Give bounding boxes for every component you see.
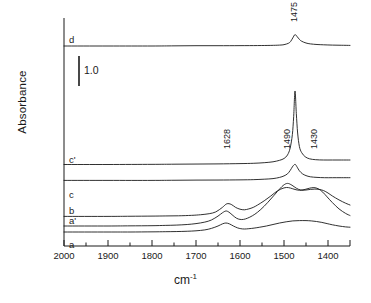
spectrum-trace-d bbox=[64, 35, 350, 46]
ftir-spectra-figure: Absorbance cm-1 200019001800170016001500… bbox=[0, 0, 371, 303]
trace-label-c: c bbox=[69, 189, 74, 200]
y-axis-label: Absorbance bbox=[16, 52, 28, 152]
x-tick-label: 1400 bbox=[317, 250, 338, 261]
axis-ticks bbox=[64, 240, 350, 246]
peak-label-1430: 1430 bbox=[309, 129, 319, 149]
trace-label-a-prime: a' bbox=[69, 215, 76, 226]
x-tick-label: 1900 bbox=[97, 250, 118, 261]
spectra-traces bbox=[64, 35, 350, 232]
peak-label-1475: 1475 bbox=[289, 2, 299, 22]
peak-label-1628: 1628 bbox=[222, 129, 232, 149]
trace-label-d: d bbox=[69, 34, 74, 45]
x-axis-label-main: cm bbox=[174, 273, 190, 287]
trace-label-a: a bbox=[69, 239, 74, 250]
spectrum-trace-b bbox=[64, 187, 350, 216]
spectrum-trace-c-prime bbox=[64, 91, 350, 165]
axis-lines bbox=[64, 18, 350, 246]
trace-label-c-prime: c' bbox=[69, 154, 76, 165]
x-tick-label: 1600 bbox=[229, 250, 250, 261]
scale-bar-label: 1.0 bbox=[84, 64, 99, 76]
x-axis-label: cm-1 bbox=[0, 272, 371, 287]
x-tick-label: 1700 bbox=[185, 250, 206, 261]
peak-label-1490: 1490 bbox=[282, 129, 292, 149]
x-tick-label: 1800 bbox=[141, 250, 162, 261]
x-axis-label-superscript: -1 bbox=[190, 272, 197, 281]
x-tick-label: 2000 bbox=[53, 250, 74, 261]
spectrum-trace-c bbox=[64, 164, 350, 180]
x-tick-label: 1500 bbox=[273, 250, 294, 261]
